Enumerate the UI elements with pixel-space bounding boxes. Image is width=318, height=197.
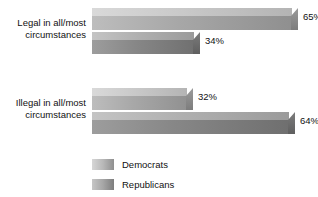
chart-legend: Democrats Republicans [92,156,174,196]
bar-top-face [92,8,292,16]
bar-top-face [92,112,289,120]
bar-group: 32% 64% [92,88,318,140]
legend-swatch-icon [92,179,114,190]
bar-front-face [92,96,193,110]
bar-end-cap [186,88,193,110]
bar-value-label: 64% [300,115,318,127]
category-label: Legal in all/most circumstances [0,17,86,40]
bar-top-face [92,88,187,96]
bar-front-face [92,120,295,134]
legend-item-republicans: Republicans [92,176,174,193]
bar-chart: Legal in all/most circumstances 65% 34% [0,0,318,197]
bar-front-face [92,40,200,54]
bar-top-face [92,32,194,40]
bar-front-face [92,16,298,30]
bar-republicans [92,32,200,54]
bar-end-cap [288,112,295,134]
bar-end-cap [193,32,200,54]
category-label: Illegal in all/most circumstances [0,97,86,120]
bar-democrats [92,8,298,30]
bar-democrats [92,88,193,110]
bar-value-label: 32% [198,91,217,103]
bar-end-cap [291,8,298,30]
bar-republicans [92,112,295,134]
legend-swatch-icon [92,159,114,170]
bar-value-label: 34% [205,35,224,47]
bar-value-label: 65% [303,11,318,23]
legend-label: Democrats [122,159,168,170]
bar-group: 65% 34% [92,8,318,60]
legend-label: Republicans [122,179,174,190]
legend-item-democrats: Democrats [92,156,174,173]
